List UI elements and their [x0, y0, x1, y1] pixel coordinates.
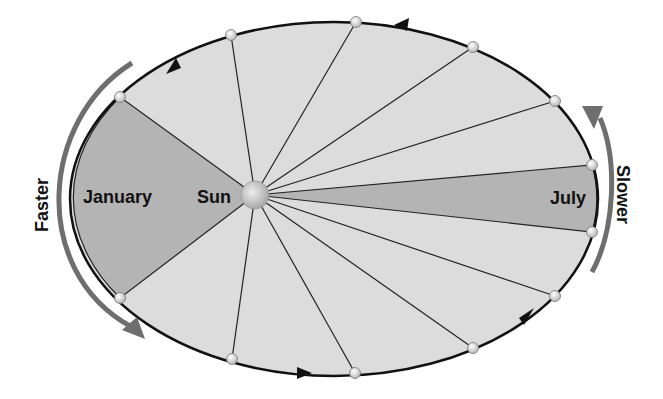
- faster-label: Faster: [32, 178, 52, 232]
- arrow-up-icon: [582, 106, 603, 129]
- sun-label: Sun: [197, 187, 231, 207]
- sun-icon: [241, 181, 269, 209]
- planet-dot: [227, 354, 238, 365]
- planet-dot: [550, 291, 561, 302]
- planet-dot: [226, 30, 237, 41]
- planet-dot: [550, 96, 561, 107]
- july-label: July: [550, 188, 586, 208]
- january-label: January: [83, 187, 152, 207]
- planet-dot: [350, 368, 361, 379]
- planet-dot: [468, 42, 479, 53]
- planet-dot: [115, 92, 126, 103]
- slower-label: Slower: [613, 165, 633, 224]
- planet-dot: [587, 227, 598, 238]
- planet-dot: [115, 293, 126, 304]
- planet-dot: [468, 343, 479, 354]
- planet-dot: [351, 17, 362, 28]
- kepler-orbit-diagram: Sun January July Faster Slower: [0, 0, 663, 399]
- planet-dot: [587, 160, 598, 171]
